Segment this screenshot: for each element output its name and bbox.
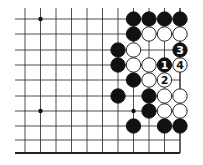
black-stone — [142, 104, 156, 118]
move-number: 1 — [161, 59, 169, 72]
black-stone — [126, 12, 140, 26]
white-stone — [157, 104, 171, 118]
white-stone — [142, 73, 156, 87]
white-stone — [173, 27, 187, 41]
black-stone — [126, 73, 140, 87]
black-stone — [111, 43, 125, 57]
black-stone — [157, 12, 171, 26]
black-stone — [157, 119, 171, 133]
white-stone — [157, 27, 171, 41]
move-number: 2 — [161, 74, 169, 87]
white-stone — [157, 89, 171, 103]
black-stone — [142, 89, 156, 103]
black-stone — [142, 12, 156, 26]
white-stone — [126, 43, 140, 57]
black-stone — [126, 27, 140, 41]
move-number: 3 — [176, 44, 184, 57]
go-board: 3142 — [0, 0, 203, 165]
star-point — [38, 17, 42, 21]
black-stone — [111, 58, 125, 72]
white-stone — [173, 89, 187, 103]
white-stone — [173, 104, 187, 118]
star-point — [131, 109, 135, 113]
white-stone — [126, 58, 140, 72]
white-stone — [142, 27, 156, 41]
star-point — [38, 109, 42, 113]
black-stone — [173, 119, 187, 133]
black-stone — [126, 119, 140, 133]
move-number: 4 — [176, 59, 184, 72]
white-stone — [142, 58, 156, 72]
black-stone — [173, 12, 187, 26]
black-stone — [111, 89, 125, 103]
